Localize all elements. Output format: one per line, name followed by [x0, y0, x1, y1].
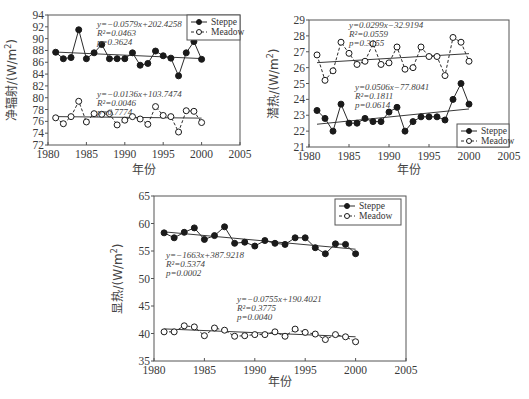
y-tick-label: 92 — [33, 21, 45, 33]
regression-annotation: y=−1663x+387.9218R²=0.5374p=0.0002 — [165, 250, 244, 278]
legend-marker — [467, 139, 472, 144]
data-point — [330, 128, 336, 134]
data-point — [171, 235, 177, 241]
data-point — [68, 55, 74, 61]
data-point — [410, 119, 416, 125]
data-point — [354, 61, 360, 67]
data-point — [292, 235, 298, 241]
data-point — [60, 56, 66, 62]
data-point — [76, 98, 82, 104]
data-point — [442, 73, 448, 79]
data-point — [160, 112, 166, 118]
svg-text:p=0.0002: p=0.0002 — [165, 268, 202, 278]
legend: SteppeMeadow — [457, 124, 514, 147]
data-point — [168, 55, 174, 61]
data-point — [332, 241, 338, 247]
legend-label-meadow: Meadow — [211, 27, 244, 37]
y-tick-label: 27 — [294, 46, 306, 58]
trend-line — [164, 232, 356, 249]
data-point — [343, 241, 349, 247]
x-tick-label: 1990 — [243, 364, 266, 376]
x-tick-label: 2005 — [498, 150, 521, 162]
x-tick-label: 1990 — [378, 150, 401, 162]
data-point — [76, 27, 82, 33]
data-point — [222, 327, 228, 333]
chart-latent-heat: 2122232425262728291980198519901995200020… — [266, 14, 521, 177]
data-point — [232, 240, 238, 246]
x-tick-label: 1985 — [75, 148, 98, 160]
data-point — [346, 50, 352, 56]
y-tick-label: 76 — [33, 115, 45, 127]
legend-marker — [467, 129, 472, 134]
svg-text:p=0.0040: p=0.0040 — [236, 312, 273, 322]
x-tick-label: 1990 — [113, 148, 136, 160]
data-point — [386, 60, 392, 66]
y-tick-label: 84 — [33, 68, 45, 80]
data-point — [312, 245, 318, 251]
figure-canvas: 7274767880828486889092941980198519901995… — [0, 0, 529, 399]
legend-label-steppe: Steppe — [481, 126, 507, 136]
data-point — [114, 122, 120, 128]
data-point — [434, 114, 440, 120]
regression-annotation: y=−0.0136x+103.7474R²=0.0046p=0.7774 — [96, 89, 182, 117]
data-point — [222, 224, 228, 230]
data-point — [282, 241, 288, 247]
data-point — [322, 115, 328, 121]
y-axis-ticks: 35404550556065 — [139, 190, 155, 367]
data-point — [346, 120, 352, 126]
data-point — [161, 230, 167, 236]
data-point — [122, 117, 128, 123]
data-point — [282, 333, 288, 339]
svg-text:p=0.0614: p=0.0614 — [354, 100, 391, 110]
data-point — [272, 240, 278, 246]
x-tick-label: 1995 — [152, 148, 175, 160]
y-tick-label: 25 — [294, 78, 306, 90]
data-point — [83, 56, 89, 62]
legend-label-meadow: Meadow — [481, 136, 514, 146]
x-tick-label: 1985 — [193, 364, 216, 376]
data-point — [426, 114, 432, 120]
x-tick-label: 1980 — [298, 150, 321, 162]
data-point — [211, 233, 217, 239]
legend-label-steppe: Steppe — [211, 17, 237, 27]
y-tick-label: 28 — [294, 30, 306, 42]
x-tick-label: 2000 — [190, 148, 213, 160]
y-axis-label: 显热/(W/m2) — [110, 243, 125, 313]
data-point — [402, 128, 408, 134]
data-point — [160, 53, 166, 59]
y-tick-label: 24 — [294, 93, 306, 105]
data-point — [199, 56, 205, 62]
x-tick-label: 2000 — [458, 150, 481, 162]
data-point — [434, 54, 440, 60]
regression-annotation: y=0.0506x−77.8041R²=0.1811p=0.0614 — [354, 82, 429, 110]
data-point — [343, 334, 349, 340]
svg-text:p=0.3624: p=0.3624 — [96, 37, 133, 47]
data-point — [362, 115, 368, 121]
y-tick-label: 60 — [139, 218, 151, 230]
data-point — [191, 225, 197, 231]
x-tick-label: 1985 — [338, 150, 361, 162]
regression-annotation: y=0.0299x−32.9194R²=0.0559p=0.3155 — [348, 20, 424, 48]
data-point — [262, 332, 268, 338]
data-point — [153, 48, 159, 54]
data-point — [122, 56, 128, 62]
svg-text:p=0.7774: p=0.7774 — [96, 107, 133, 117]
data-point — [176, 73, 182, 79]
data-point — [53, 49, 59, 55]
data-point — [338, 101, 344, 107]
x-tick-label: 1980 — [37, 148, 60, 160]
y-tick-label: 45 — [139, 300, 151, 312]
x-axis-label: 年份 — [397, 163, 421, 177]
x-axis-label: 年份 — [268, 375, 292, 389]
x-tick-label: 2005 — [229, 148, 252, 160]
legend-label-steppe: Steppe — [359, 201, 385, 211]
data-point — [370, 119, 376, 125]
data-point — [450, 96, 456, 102]
series-meadow: y=−0.0136x+103.7474R²=0.0046p=0.7774 — [53, 89, 205, 135]
trend-line — [164, 329, 356, 337]
y-tick-label: 26 — [294, 62, 306, 74]
x-tick-label: 2000 — [344, 364, 367, 376]
data-point — [242, 333, 248, 339]
x-tick-label: 2005 — [395, 364, 418, 376]
series-steppe: y=0.0506x−77.8041R²=0.1811p=0.0614 — [314, 81, 472, 135]
